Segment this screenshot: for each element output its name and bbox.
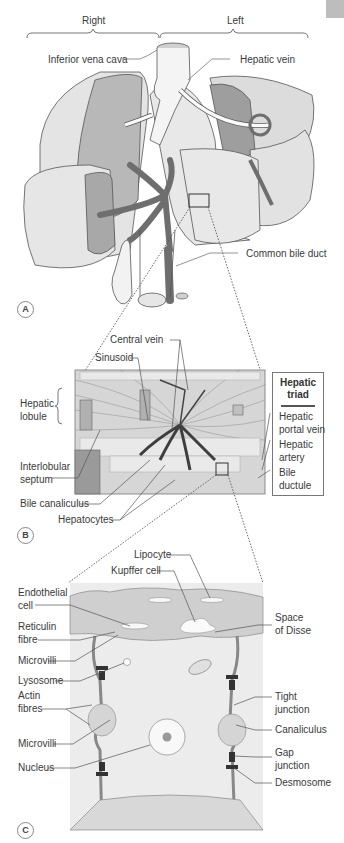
label-endothelial-cell-2: cell	[18, 600, 33, 612]
panel-label-a: A	[17, 301, 34, 318]
label-endothelial-cell-1: Endothelial	[18, 587, 67, 599]
triad-item-portal-vein-1: Hepatic	[279, 411, 313, 423]
triad-item-portal-vein-2: portal vein	[279, 424, 325, 436]
label-space-of-disse-2: of Disse	[275, 625, 311, 637]
label-hepatic-lobule-2: lobule	[20, 411, 47, 423]
label-desmosome: Desmosome	[275, 777, 331, 789]
label-actin-fibres-1: Actin	[18, 690, 40, 702]
triad-item-artery-1: Hepatic	[279, 439, 313, 451]
label-tight-junction-2: junction	[275, 704, 309, 716]
label-interlobular-septum-1: Interlobular	[20, 461, 70, 473]
label-common-bile-duct: Common bile duct	[246, 248, 327, 260]
label-tight-junction-1: Tight	[275, 691, 297, 703]
panel-label-b: B	[17, 527, 34, 544]
triad-item-bile-ductule-2: ductule	[279, 480, 311, 492]
label-space-of-disse-1: Space	[275, 612, 303, 624]
label-kupffer-cell: Kupffer cell	[111, 565, 161, 577]
label-left: Left	[227, 15, 244, 27]
triad-item-bile-ductule-1: Bile	[279, 467, 296, 479]
label-hepatic-vein: Hepatic vein	[240, 54, 295, 66]
label-reticulin-fibre-2: fibre	[18, 634, 37, 646]
label-sinusoid: Sinusoid	[95, 352, 133, 364]
triad-title-line-1: Hepatic	[273, 377, 323, 389]
label-right: Right	[82, 15, 105, 27]
label-actin-fibres-2: fibres	[18, 703, 42, 715]
triad-title: Hepatic triad	[273, 377, 323, 401]
label-hepatic-lobule-1: Hepatic	[20, 398, 54, 410]
panel-label-c: C	[17, 822, 34, 839]
label-lipocyte: Lipocyte	[134, 549, 171, 561]
label-microvilli-top: Microvilli	[18, 655, 56, 667]
label-lysosome: Lysosome	[18, 675, 63, 687]
triad-title-line-2: triad	[273, 389, 323, 401]
label-interlobular-septum-2: septum	[20, 474, 53, 486]
hepatic-triad-box: Hepatic triad Hepatic portal vein Hepati…	[272, 372, 324, 496]
label-nucleus: Nucleus	[18, 762, 54, 774]
label-gap-junction-2: junction	[275, 760, 309, 772]
label-hepatocytes: Hepatocytes	[58, 514, 114, 526]
label-bile-canaliculus: Bile canaliculus	[20, 498, 89, 510]
label-reticulin-fibre-1: Reticulin	[18, 621, 56, 633]
label-microvilli-bottom: Microvilli	[18, 738, 56, 750]
triad-divider	[281, 405, 315, 407]
label-central-vein: Central vein	[110, 334, 163, 346]
label-gap-junction-1: Gap	[275, 747, 294, 759]
triad-item-artery-2: artery	[279, 452, 305, 464]
label-canaliculus: Canaliculus	[275, 724, 327, 736]
label-inferior-vena-cava: Inferior vena cava	[48, 54, 128, 66]
